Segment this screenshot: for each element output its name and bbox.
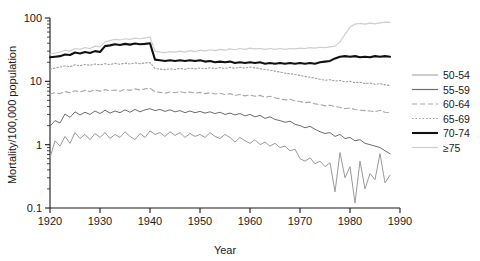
y-tick-label: 1	[36, 139, 42, 151]
x-axis-title: Year	[214, 244, 237, 256]
x-tick-label: 1960	[238, 215, 262, 227]
y-tick-label: 10	[30, 75, 42, 87]
mortality-chart: 0.1110100 192019301940195019601970198019…	[0, 0, 480, 261]
legend-label-5559: 55-59	[443, 84, 470, 96]
x-tick-label: 1950	[188, 215, 212, 227]
legend-label-5054: 50-54	[443, 69, 470, 81]
x-tick-label: 1980	[338, 215, 362, 227]
chart-canvas: 0.1110100 192019301940195019601970198019…	[0, 0, 480, 261]
legend-label-6064: 60-64	[443, 98, 470, 110]
x-tick-label: 1940	[138, 215, 162, 227]
y-tick-label: 100	[24, 12, 42, 24]
x-tick-label: 1990	[388, 215, 412, 227]
y-axis-title: Mortality/100,000 population	[6, 46, 18, 184]
legend-label-6569: 65-69	[443, 113, 470, 125]
x-tick-label: 1970	[288, 215, 312, 227]
legend-label-7074: 70-74	[443, 127, 470, 139]
legend-label-75: ≥75	[443, 142, 461, 154]
y-tick-label: 0.1	[27, 202, 42, 214]
x-tick-label: 1930	[88, 215, 112, 227]
x-tick-label: 1920	[38, 215, 62, 227]
